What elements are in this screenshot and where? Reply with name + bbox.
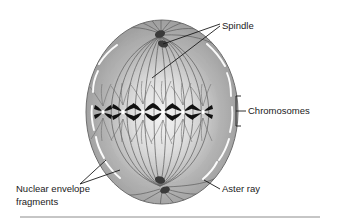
label-spindle: Spindle	[222, 20, 254, 31]
mitosis-metaphase-figure: Spindle Chromosomes Nuclear envelope fra…	[0, 0, 340, 224]
label-chromosomes: Chromosomes	[248, 105, 310, 116]
figure-canvas: Spindle Chromosomes Nuclear envelope fra…	[0, 0, 340, 224]
label-nuclear-envelope-line1: Nuclear envelope	[16, 183, 90, 194]
label-aster-ray: Aster ray	[222, 183, 260, 194]
label-nuclear-envelope-line2: fragments	[16, 196, 58, 207]
